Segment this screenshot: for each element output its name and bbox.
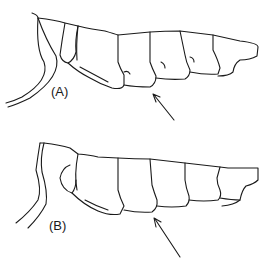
panel-a-label: (A) <box>51 84 68 99</box>
panel-b-label: (B) <box>49 218 66 233</box>
dental-arch-drawing <box>0 0 266 264</box>
panel-a-arrow <box>153 94 174 120</box>
panel-b-teeth <box>16 143 258 228</box>
panel-a-teeth <box>6 13 258 107</box>
panel-b-arrow <box>154 218 180 257</box>
